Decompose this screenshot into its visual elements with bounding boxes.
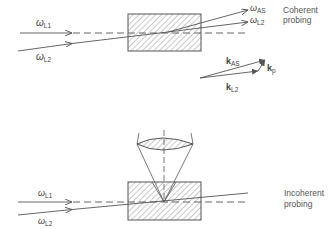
label-omega-l2-out: ωL2 xyxy=(250,15,265,26)
beam-l2-bottom xyxy=(18,210,72,216)
raman-probing-diagram: ωL1 ωL2 ωAS ωL2 Coherent probing kAS kL2… xyxy=(0,0,335,229)
wavevector-diagram: kAS kL2 kp xyxy=(200,56,276,93)
label-omega-l1-bottom: ωL1 xyxy=(38,188,53,199)
caption-probing-2: probing xyxy=(284,199,313,209)
label-omega-l2-bottom: ωL2 xyxy=(38,216,53,227)
caption-probing: probing xyxy=(283,15,312,25)
beam-l2 xyxy=(18,44,72,52)
label-k-p: kp xyxy=(267,63,276,75)
label-omega-l2: ωL2 xyxy=(36,51,51,63)
label-omega-l1: ωL1 xyxy=(36,17,51,29)
coherent-probing-panel: ωL1 ωL2 ωAS ωL2 Coherent probing kAS kL2… xyxy=(18,3,319,93)
label-k-l2: kL2 xyxy=(226,82,239,93)
caption-incoherent: Incoherent xyxy=(284,188,325,198)
collection-lens xyxy=(137,138,193,150)
label-k-as: kAS xyxy=(226,56,240,67)
caption-coherent: Coherent xyxy=(283,5,319,15)
incoherent-probing-panel: ωL1 ωL2 Incoherent probing xyxy=(18,130,325,227)
label-omega-as: ωAS xyxy=(250,3,266,14)
